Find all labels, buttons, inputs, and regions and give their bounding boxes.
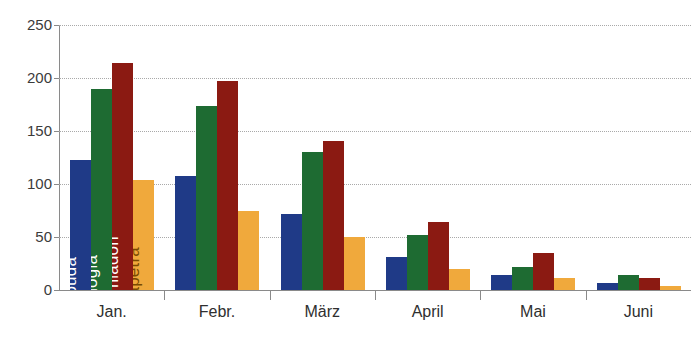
bar-group (480, 25, 585, 290)
y-tick-label-250: 250 (6, 17, 52, 32)
x-tick-1 (270, 291, 271, 300)
bar-tzermidon-5[interactable] (639, 278, 660, 290)
y-axis-labels: 050100150200250 (0, 0, 52, 339)
bar-tzermidon-2[interactable] (323, 141, 344, 290)
bar-angia-3[interactable] (407, 235, 428, 290)
plot-area: SoúdaAnógiaTzermiádonIerápetra (59, 25, 691, 290)
y-tick-label-100: 100 (6, 176, 52, 191)
x-axis-label-2: März (270, 303, 375, 321)
bar-group (586, 25, 691, 290)
bar-angia-4[interactable] (512, 267, 533, 290)
bar-angia-2[interactable] (302, 152, 323, 290)
bar-angia-1[interactable] (196, 106, 217, 290)
series-label-ierpetra: Ierápetra (133, 247, 144, 290)
bar-ierpetra-4[interactable] (554, 278, 575, 290)
series-label-soda: Soúda (70, 257, 81, 290)
bar-tzermidon-4[interactable] (533, 253, 554, 290)
y-tick-label-200: 200 (6, 70, 52, 85)
bar-ierpetra-0[interactable]: Ierápetra (133, 180, 154, 290)
bar-soda-4[interactable] (491, 275, 512, 290)
bar-group (270, 25, 375, 290)
x-axis-label-0: Jan. (59, 303, 164, 321)
x-axis-label-4: Mai (480, 303, 585, 321)
y-tick-label-150: 150 (6, 123, 52, 138)
bar-soda-2[interactable] (281, 214, 302, 290)
series-label-angia: Anógia (91, 255, 102, 290)
x-tick-3 (480, 291, 481, 300)
series-label-tzermidon: Tzermiádon (112, 236, 123, 290)
x-tick-2 (375, 291, 376, 300)
bar-ierpetra-2[interactable] (344, 237, 365, 290)
bar-group (164, 25, 269, 290)
x-tick-4 (586, 291, 587, 300)
x-tick-0 (164, 291, 165, 300)
bar-group: SoúdaAnógiaTzermiádonIerápetra (59, 25, 164, 290)
bar-chart: 050100150200250 SoúdaAnógiaTzermiádonIer… (0, 0, 691, 339)
x-axis-label-1: Febr. (164, 303, 269, 321)
bar-soda-1[interactable] (175, 176, 196, 290)
bar-ierpetra-1[interactable] (238, 211, 259, 291)
bar-group (375, 25, 480, 290)
cropped-title-fragment (150, 0, 450, 3)
bar-soda-0[interactable]: Soúda (70, 160, 91, 290)
y-tick-label-0: 0 (6, 282, 52, 297)
bar-tzermidon-0[interactable]: Tzermiádon (112, 63, 133, 290)
y-tick-label-50: 50 (6, 229, 52, 244)
bar-soda-5[interactable] (597, 283, 618, 290)
x-axis-label-3: April (375, 303, 480, 321)
bar-angia-5[interactable] (618, 275, 639, 290)
bar-ierpetra-3[interactable] (449, 269, 470, 290)
x-axis-label-5: Juni (586, 303, 691, 321)
bar-tzermidon-1[interactable] (217, 81, 238, 290)
bar-soda-3[interactable] (386, 257, 407, 290)
bar-tzermidon-3[interactable] (428, 222, 449, 290)
bar-angia-0[interactable]: Anógia (91, 89, 112, 290)
